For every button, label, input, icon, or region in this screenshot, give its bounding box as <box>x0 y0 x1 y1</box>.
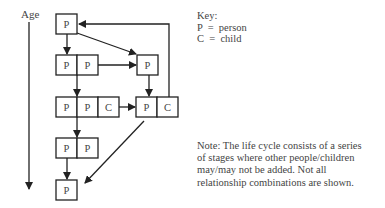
stage-4 <box>56 138 98 158</box>
key-entry-person: P = person <box>197 22 247 34</box>
cell-label: P <box>64 102 70 113</box>
cell-label: P <box>64 19 70 30</box>
arrow-s1-s2b <box>77 33 136 54</box>
cell-label: P <box>85 143 91 154</box>
stage-2a <box>56 55 98 75</box>
stage-3b <box>136 97 178 117</box>
cell-label: P <box>85 102 91 113</box>
note-line: may/may not be added. Not all <box>197 164 382 176</box>
cell-label: P <box>145 60 151 71</box>
note-text: Note: The life cycle consists of a serie… <box>197 140 382 189</box>
cell-label: P <box>64 185 70 196</box>
note-line: Note: The life cycle consists of a serie… <box>197 140 382 152</box>
key-entry-child: C = child <box>197 33 247 45</box>
note-line: of stages where other people/children <box>197 152 382 164</box>
cell-label: C <box>105 102 112 113</box>
cell-label: P <box>85 60 91 71</box>
cell-label: P <box>64 60 70 71</box>
cell-label: P <box>144 102 150 113</box>
cell-label: P <box>64 143 70 154</box>
cell-label: C <box>164 102 171 113</box>
key-title: Key: <box>197 10 247 22</box>
legend-key: Key: P = person C = child <box>197 10 247 45</box>
note-line: relationship combinations are shown. <box>197 177 382 189</box>
age-axis-label: Age <box>21 8 39 20</box>
